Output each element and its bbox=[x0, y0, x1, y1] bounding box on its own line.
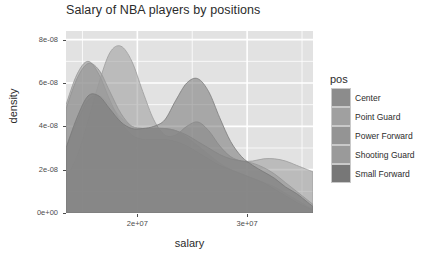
plot-area bbox=[0, 0, 428, 260]
legend-key-small-forward[interactable] bbox=[331, 164, 351, 183]
legend-label-shooting-guard: Shooting Guard bbox=[355, 150, 415, 160]
legend-key-point-guard[interactable] bbox=[331, 107, 351, 126]
legend-key-power-forward[interactable] bbox=[331, 126, 351, 145]
chart-container: Salary of NBA players by positions densi… bbox=[0, 0, 428, 260]
legend-label-power-forward: Power Forward bbox=[355, 131, 413, 141]
legend-label-small-forward: Small Forward bbox=[355, 169, 410, 179]
legend-label-point-guard: Point Guard bbox=[355, 112, 400, 122]
legend-label-center: Center bbox=[355, 93, 381, 103]
legend-title: pos bbox=[330, 73, 348, 85]
legend-key-shooting-guard[interactable] bbox=[331, 145, 351, 164]
legend-key-center[interactable] bbox=[331, 88, 351, 107]
